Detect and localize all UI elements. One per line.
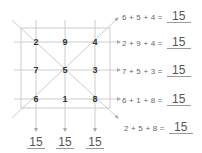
equation-expression: 6 + 1 + 8 = xyxy=(122,96,163,106)
equation-row-3: 6 + 1 + 8 = 15 xyxy=(122,92,191,106)
equation-expression: 7 + 5 + 3 = xyxy=(122,67,163,77)
equation-expression: 6 + 5 + 4 = xyxy=(122,13,163,23)
equation-answer: 15 xyxy=(167,10,191,23)
cell-r2c2: 5 xyxy=(59,64,71,76)
cell-r3c1: 6 xyxy=(30,93,42,105)
column-sum-2: 15 xyxy=(56,136,74,149)
equation-diagonal-down: 2 + 5 + 8 = 15 xyxy=(124,120,193,134)
equation-answer: 15 xyxy=(167,93,191,106)
equation-expression: 2 + 5 + 8 = xyxy=(124,124,165,134)
cell-r3c3: 8 xyxy=(89,93,101,105)
equation-answer: 15 xyxy=(169,121,193,134)
equation-answer: 15 xyxy=(167,36,191,49)
cell-r1c2: 9 xyxy=(59,36,71,48)
equation-row-2: 7 + 5 + 3 = 15 xyxy=(122,63,191,77)
cell-r1c1: 2 xyxy=(30,36,42,48)
cell-r2c3: 3 xyxy=(89,64,101,76)
column-sum-1: 15 xyxy=(27,136,45,149)
magic-square-diagram: 2 9 4 7 5 3 6 1 8 6 + 5 + 4 = 15 2 + 9 +… xyxy=(0,0,202,153)
equation-expression: 2 + 9 + 4 = xyxy=(122,39,163,49)
equation-diagonal-up: 6 + 5 + 4 = 15 xyxy=(122,9,191,23)
cell-r3c2: 1 xyxy=(59,93,71,105)
cell-r2c1: 7 xyxy=(30,64,42,76)
column-sum-3: 15 xyxy=(86,136,104,149)
equation-answer: 15 xyxy=(167,64,191,77)
equation-row-1: 2 + 9 + 4 = 15 xyxy=(122,35,191,49)
cell-r1c3: 4 xyxy=(89,36,101,48)
